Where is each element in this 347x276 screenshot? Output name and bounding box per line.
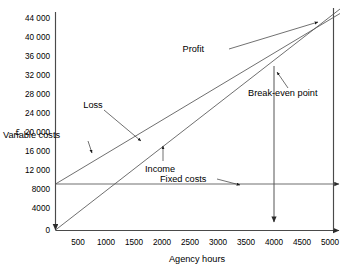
y-tick-label: 4000 [32,204,51,213]
break-even-chart: 44 000 40 000 36 000 32 000 28 000 24 00… [0,0,347,276]
annotation-label-break-even-point: Break-even point [248,88,318,98]
x-tick-label: 4000 [265,238,284,247]
x-tick-label: 5000 [321,238,340,247]
y-tick-label: 8000 [32,185,51,194]
x-tick-label: 2000 [153,238,172,247]
break-even-leader-line [277,72,288,88]
y-tick-label: 12 000 [25,166,50,175]
annotation-label-profit: Profit [183,44,205,54]
series-line-income [56,9,341,230]
chart-svg: 44 000 40 000 36 000 32 000 28 000 24 00… [0,0,347,276]
y-tick-label: 40 000 [25,33,50,42]
series-line-variable-costs [56,14,341,185]
x-tick-label: 1500 [125,238,144,247]
x-tick-label: 4500 [293,238,312,247]
x-tick-labels: 500 1000 1500 2000 2500 3000 3500 4000 4… [71,238,339,247]
y-tick-label: 44 000 [25,14,50,23]
y-tick-label: 16 000 [25,147,50,156]
x-tick-label: 3500 [237,238,256,247]
variable-costs-leader-line [88,141,92,153]
y-tick-label: 32 000 [25,71,50,80]
x-tick-label: 2500 [181,238,200,247]
x-tick-label: 3000 [209,238,228,247]
y-tick-labels: 44 000 40 000 36 000 32 000 28 000 24 00… [15,14,50,235]
annotation-labels: Profit Loss Variable costs Income Fixed … [3,44,318,184]
x-tick-label: 1000 [97,238,116,247]
series-group [56,9,341,230]
y-tick-label: 36 000 [25,52,50,61]
annotation-label-fixed-costs: Fixed costs [160,174,207,184]
annotation-label-loss: Loss [83,100,103,110]
y-tick-label: 0 [45,226,50,235]
loss-leader-line [104,110,141,141]
annotation-label-variable-costs: Variable costs [3,130,60,140]
y-tick-label: 28 000 [25,90,50,99]
y-tick-label: 24 000 [25,109,50,118]
x-axis-title: Agency hours [169,254,226,264]
profit-leader-line [229,22,318,49]
annotation-label-income: Income [145,164,175,174]
x-tick-label: 500 [71,238,85,247]
